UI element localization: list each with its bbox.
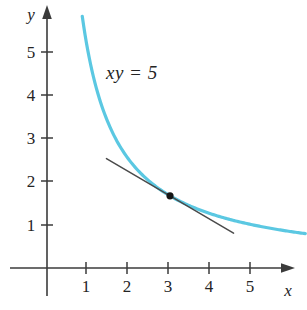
curve-xy-equals-5: [82, 16, 305, 233]
x-tick-label-5: 5: [246, 277, 255, 296]
x-tick-label-3: 3: [164, 277, 173, 296]
y-axis-label: y: [25, 5, 35, 24]
x-axis-arrow-icon: [281, 263, 295, 273]
y-axis-arrow-icon: [42, 5, 52, 19]
x-axis-label: x: [283, 281, 292, 300]
y-tick-label-3: 3: [27, 129, 36, 148]
y-tick-label-1: 1: [27, 216, 36, 235]
x-tick-label-2: 2: [123, 277, 132, 296]
x-tick-label-4: 4: [205, 277, 214, 296]
y-tick-label-2: 2: [27, 172, 36, 191]
figure-container: 1 2 3 4 5 1 2 3 4 5 y x xy = 5: [0, 0, 307, 310]
y-tick-label-5: 5: [27, 43, 36, 62]
point-of-tangency: [166, 192, 173, 199]
curve-equation-label: xy = 5: [105, 62, 158, 83]
y-tick-label-4: 4: [27, 86, 36, 105]
x-tick-label-1: 1: [82, 277, 91, 296]
math-figure: 1 2 3 4 5 1 2 3 4 5 y x xy = 5: [0, 0, 307, 310]
